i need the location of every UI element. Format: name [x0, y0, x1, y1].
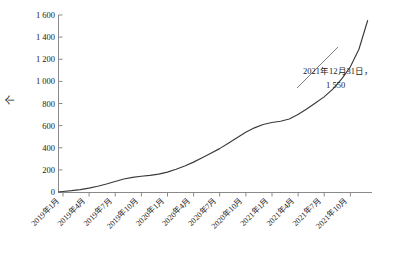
- annotation-label-line1: 2021年12月31日，: [303, 66, 373, 76]
- y-tick-label: 1 200: [36, 54, 55, 64]
- y-tick-label: 1 600: [36, 10, 55, 20]
- y-tick-label: 600: [42, 121, 55, 131]
- y-tick-label: 800: [42, 99, 55, 109]
- line-chart: 0 200 400 600 800 1 000 1 200 1 400 1 60…: [0, 0, 401, 258]
- y-axis-title: 个: [5, 95, 16, 105]
- y-tick-label: 1 400: [36, 32, 55, 42]
- y-tick-label: 200: [42, 165, 55, 175]
- y-tick-label: 1 000: [36, 76, 55, 86]
- y-tick-label: 400: [42, 143, 55, 153]
- annotation-label-line2: 1 550: [326, 80, 345, 90]
